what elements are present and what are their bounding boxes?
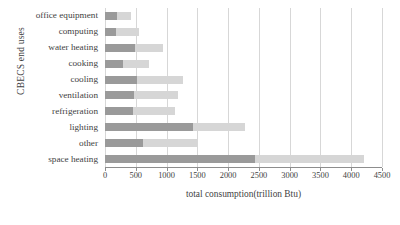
x-axis-title: total consumption(trillion Btu) xyxy=(105,189,382,199)
bar-row xyxy=(105,8,382,24)
bar-segment xyxy=(137,76,183,84)
x-axis-tick-label: 4500 xyxy=(374,171,391,180)
bar-row xyxy=(105,119,382,135)
y-axis-tick-label: water heating xyxy=(14,40,102,56)
bar-row xyxy=(105,88,382,104)
bar-row xyxy=(105,72,382,88)
x-axis-tick-label: 2500 xyxy=(251,171,268,180)
plot-area xyxy=(105,8,382,167)
stacked-bar xyxy=(105,91,382,99)
bar-segment xyxy=(105,155,255,163)
bar-segment xyxy=(116,28,139,36)
bar-row xyxy=(105,40,382,56)
x-axis-tick-label: 3000 xyxy=(281,171,298,180)
y-axis-category-labels: office equipment computing water heating… xyxy=(14,8,102,167)
stacked-bar xyxy=(105,123,382,131)
bar-row xyxy=(105,135,382,151)
bar-series-group xyxy=(105,8,382,167)
x-axis-tick-label: 0 xyxy=(103,171,107,180)
bar-segment xyxy=(105,123,193,131)
stacked-bar xyxy=(105,44,382,52)
bar-segment xyxy=(117,12,131,20)
bar-segment xyxy=(193,123,245,131)
x-axis-tick-label: 4000 xyxy=(343,171,360,180)
y-axis-tick-label: space heating xyxy=(14,151,102,167)
bar-segment xyxy=(105,44,135,52)
bar-segment xyxy=(105,139,143,147)
y-axis-tick-label: cooking xyxy=(14,56,102,72)
bar-row xyxy=(105,56,382,72)
bar-segment xyxy=(123,60,149,68)
y-axis-tick-label: lighting xyxy=(14,119,102,135)
x-axis-tick-label: 1500 xyxy=(189,171,206,180)
y-axis-tick-label: computing xyxy=(14,24,102,40)
x-axis-tick-label: 3500 xyxy=(312,171,329,180)
stacked-bar xyxy=(105,155,382,163)
y-axis-tick-label: cooling xyxy=(14,72,102,88)
bar-segment xyxy=(105,76,137,84)
y-axis-tick-label: other xyxy=(14,135,102,151)
bar-segment xyxy=(143,139,197,147)
stacked-bar xyxy=(105,12,382,20)
bar-segment xyxy=(133,107,175,115)
y-axis-tick-label: ventilation xyxy=(14,88,102,104)
bar-segment xyxy=(105,12,117,20)
bar-segment xyxy=(134,91,178,99)
bar-segment xyxy=(105,91,134,99)
x-axis-tick-labels: 050010001500200025003000350040004500 xyxy=(105,171,382,185)
stacked-bar xyxy=(105,107,382,115)
y-axis-tick-label: office equipment xyxy=(14,8,102,24)
bar-segment xyxy=(105,107,133,115)
stacked-bar xyxy=(105,28,382,36)
bar-segment xyxy=(105,28,116,36)
bar-segment xyxy=(135,44,163,52)
x-axis-tick-label: 1000 xyxy=(158,171,175,180)
x-axis-tick-label: 500 xyxy=(129,171,142,180)
bar-row xyxy=(105,103,382,119)
bar-segment xyxy=(255,155,364,163)
y-axis-tick-label: refrigeration xyxy=(14,103,102,119)
gridline xyxy=(382,8,383,167)
bar-row xyxy=(105,151,382,167)
bar-chart: CBECS end uses office equipment computin… xyxy=(0,0,400,225)
stacked-bar xyxy=(105,60,382,68)
x-axis-tick-label: 2000 xyxy=(220,171,237,180)
stacked-bar xyxy=(105,76,382,84)
stacked-bar xyxy=(105,139,382,147)
bar-row xyxy=(105,24,382,40)
bar-segment xyxy=(105,60,123,68)
